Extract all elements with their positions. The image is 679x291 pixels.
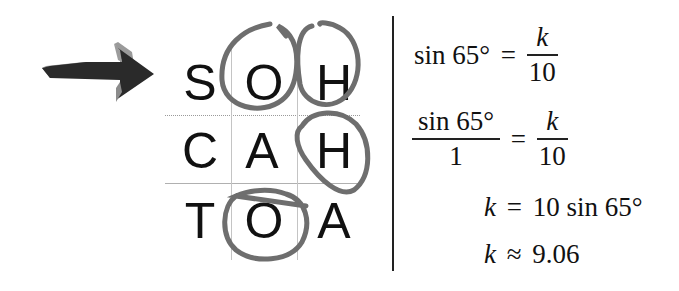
eq2-rhs-numerator: k	[537, 108, 568, 135]
eq1-denominator: 10	[527, 59, 558, 86]
equation-2: sin 65° 1 = k 10	[412, 108, 568, 170]
eq3-rhs: 10 sin 65°	[533, 192, 643, 222]
eq2-equals: =	[511, 126, 526, 153]
eq4-approx: ≈	[507, 241, 522, 268]
equation-3: k = 10 sin 65°	[484, 194, 643, 221]
eq4-value: 9.06	[532, 239, 579, 269]
eq4-var: k	[484, 239, 496, 269]
eq2-lhs-denominator: 1	[412, 143, 500, 170]
eq2-rhs-fraction: k 10	[537, 108, 568, 170]
circle-h-cah	[297, 113, 368, 192]
eq2-lhs-fraction: sin 65° 1	[412, 108, 500, 170]
eq3-equals: =	[507, 194, 522, 221]
circle-h-soh	[298, 23, 358, 105]
eq1-lhs: sin 65°	[414, 40, 490, 70]
divider-line	[392, 16, 394, 271]
circle-o-soh	[222, 24, 297, 108]
equation-4: k ≈ 9.06	[484, 241, 580, 268]
eq2-lhs-numerator: sin 65°	[412, 108, 500, 135]
eq1-equals: =	[501, 42, 516, 69]
circle-o-toa	[225, 190, 307, 259]
eq1-numerator: k	[527, 24, 558, 51]
eq2-rhs-denominator: 10	[537, 143, 568, 170]
equation-1: sin 65° = k 10	[414, 24, 558, 86]
eq1-fraction: k 10	[527, 24, 558, 86]
eq3-var: k	[484, 192, 496, 222]
